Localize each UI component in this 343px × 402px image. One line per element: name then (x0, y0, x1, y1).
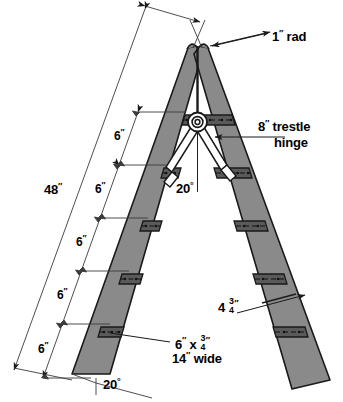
rung-spacing-label-4: 6″ (57, 287, 67, 302)
hinge-size-value: 8 (258, 119, 265, 134)
hinge-label: 8″ trestle hinge (258, 118, 310, 150)
hinge-angle-value: 20 (176, 181, 190, 196)
hinge-size-unit: ″ (265, 118, 269, 128)
taper-fraction: 34 (229, 297, 234, 315)
overall-width-unit: ″ (186, 350, 190, 360)
rung (234, 221, 268, 231)
rung-spacing-label-3: 6″ (76, 234, 86, 249)
rung (98, 327, 124, 337)
stock-width-value: 6 (175, 337, 182, 352)
overall-length-unit: ″ (58, 181, 62, 191)
stock-thickness-fraction: 34 (201, 334, 206, 352)
rung (119, 274, 143, 284)
rung (140, 221, 162, 231)
rung-spacing-unit-3: ″ (82, 233, 86, 243)
apex-radius-label: 1″ rad (272, 29, 306, 44)
taper-dimension-label: 4 34″ (218, 297, 238, 315)
rung-spacing-label-5: 6″ (38, 341, 48, 356)
apex-radius-text: rad (287, 29, 307, 44)
rung (253, 274, 287, 284)
overall-length-value: 48 (44, 182, 58, 197)
overall-length-label: 48″ (44, 182, 62, 197)
stock-times: x (190, 337, 197, 352)
trestle-technical-drawing (0, 0, 343, 402)
apex-radius-value: 1 (272, 29, 279, 44)
trestle-drawing-canvas: 1″ rad 8″ trestle hinge 48″ 6″ 6″ 6″ 6″ … (0, 0, 343, 402)
apex-radius-unit: ″ (279, 28, 283, 38)
hinge-label-line2: hinge (274, 135, 308, 150)
rung-spacing-unit-4: ″ (63, 286, 67, 296)
hinge-pivot-bore (195, 120, 200, 125)
taper-denominator: 4 (229, 306, 234, 315)
rung-spacing-unit-5: ″ (44, 340, 48, 350)
taper-whole: 4 (218, 300, 225, 315)
hinge-angle-label: 20° (176, 181, 194, 196)
stock-size-label: 6″ x 34″ (175, 334, 210, 352)
foot-angle-label: 20° (103, 377, 121, 392)
hinge-angle-unit: ° (190, 180, 194, 190)
rung-spacing-label-1: 6″ (114, 128, 124, 143)
foot-angle-unit: ° (117, 376, 121, 386)
stock-width-unit: ″ (182, 335, 186, 345)
rung (273, 327, 308, 337)
rung-spacing-label-2: 6″ (95, 181, 105, 196)
overall-width-text: wide (194, 351, 222, 366)
taper-unit: ″ (234, 298, 238, 308)
stock-thickness-unit: ″ (206, 335, 210, 345)
radius-leader-line-arrow-to-apex (212, 33, 268, 46)
rung-spacing-unit-2: ″ (101, 180, 105, 190)
foot-angle-value: 20 (103, 377, 117, 392)
right-leg (194, 44, 330, 389)
overall-width-value: 14 (172, 351, 186, 366)
rung-spacing-unit-1: ″ (120, 127, 124, 137)
overall-width-label: 14″ wide (172, 351, 222, 366)
left-leg (72, 44, 202, 374)
hinge-label-line1: trestle (273, 119, 311, 134)
